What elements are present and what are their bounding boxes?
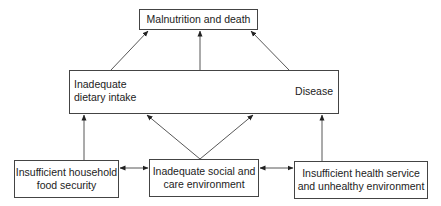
arrow-disease-to-malnutrition xyxy=(251,31,289,70)
arrow-intake-to-malnutrition xyxy=(111,31,148,70)
arrow-care-to-disease xyxy=(200,115,253,159)
arrow-care-to-intake xyxy=(147,115,200,159)
label-line: and unhealthy environment xyxy=(298,180,425,193)
label-line: Insufficient health service xyxy=(298,167,425,180)
label-line: care environment xyxy=(153,178,256,191)
label-line: Disease xyxy=(295,85,333,97)
label-line: food security xyxy=(16,179,117,192)
node-intake-disease: Inadequate dietary intake Disease xyxy=(69,70,339,114)
label-line: Inadequate social and xyxy=(153,165,256,178)
node-label: Malnutrition and death xyxy=(147,13,251,26)
node-health-service-environment: Insufficient health service and unhealth… xyxy=(294,161,428,199)
node-inadequate-dietary-intake: Inadequate dietary intake xyxy=(74,78,136,104)
label-line: Insufficient household xyxy=(16,166,117,179)
node-social-care-environment: Inadequate social and care environment xyxy=(149,159,259,197)
node-disease: Disease xyxy=(295,85,333,98)
label-line: dietary intake xyxy=(74,91,136,104)
label-line: Inadequate xyxy=(74,78,136,91)
node-household-food-security: Insufficient household food security xyxy=(14,160,119,198)
node-malnutrition-and-death: Malnutrition and death xyxy=(139,9,258,30)
